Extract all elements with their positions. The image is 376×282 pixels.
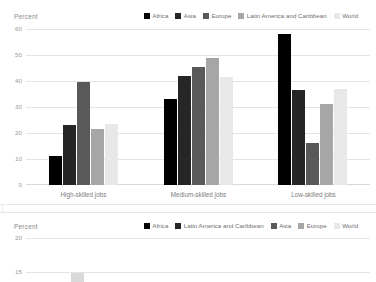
plot-area [26,29,370,185]
bar-world[interactable] [334,89,347,185]
legend-item-world[interactable]: World [334,223,359,229]
bar-asia[interactable] [63,125,76,185]
bar-asia[interactable] [292,90,305,185]
legend-swatch-icon [203,13,209,19]
y-tick-label: 20 [8,235,22,241]
legend-swatch-icon [334,13,340,19]
legend-swatch-icon [175,13,181,19]
y-tick-label: 40 [8,78,22,84]
y-tick-label: 20 [8,130,22,136]
legend-label: Europe [307,223,327,229]
chart-legend: Africa Latin America and Caribbean Asia … [144,223,358,229]
bar-groups [26,273,370,282]
y-tick-label: 30 [8,104,22,110]
legend-swatch-icon [175,223,181,229]
x-category-label: Medium-skilled jobs [141,191,256,198]
y-tick-label: 0 [8,182,22,188]
bar-africa[interactable] [278,34,291,185]
legend-item-world[interactable]: World [334,13,359,19]
legend-label: Africa [153,223,169,229]
legend-swatch-icon [144,13,150,19]
legend-label: Africa [153,13,169,19]
plot-area [26,238,370,282]
bar-latin-america-and-caribbean[interactable] [206,58,219,185]
bar-group-high-skilled-jobs [26,29,141,185]
y-axis-title: Percent [14,13,38,20]
legend-swatch-icon [144,223,150,229]
chart-panel-top: Percent Africa Asia Europe Latin America… [0,0,376,205]
bar-latin-america-and-caribbean[interactable] [91,129,104,185]
bar-africa[interactable] [164,99,177,185]
legend-swatch-icon [271,223,277,229]
legend-label: Asia [184,13,196,19]
bar-world[interactable] [220,77,233,185]
bar-europe[interactable] [77,82,90,185]
legend-label: Latin America and Caribbean [184,223,264,229]
bar-world[interactable] [71,273,84,282]
bar-world[interactable] [105,124,118,185]
y-tick-label: 15 [8,269,22,275]
legend-label: Asia [279,223,291,229]
legend-swatch-icon [334,223,340,229]
bar-groups [26,29,370,185]
legend-item-latin-america-and-caribbean[interactable]: Latin America and Caribbean [175,223,263,229]
legend-label: Europe [211,13,231,19]
legend-item-asia[interactable]: Asia [175,13,196,19]
legend-swatch-icon [238,13,244,19]
legend-label: World [342,13,358,19]
legend-item-africa[interactable]: Africa [144,223,168,229]
legend-item-africa[interactable]: Africa [144,13,168,19]
bar-asia[interactable] [178,76,191,185]
x-category-label: High-skilled jobs [26,191,141,198]
legend-item-asia[interactable]: Asia [271,223,292,229]
legend-label: Latin America and Caribbean [247,13,327,19]
chart-panel-bottom: Percent Africa Latin America and Caribbe… [0,212,376,281]
y-tick-label: 60 [8,26,22,32]
bar-latin-america-and-caribbean[interactable] [320,104,333,185]
legend-item-latin-america-and-caribbean[interactable]: Latin America and Caribbean [238,13,326,19]
bar-europe[interactable] [192,67,205,185]
x-category-label: Low-skilled jobs [256,191,371,198]
chart-legend: Africa Asia Europe Latin America and Car… [144,13,358,19]
bar-group-medium-skilled-jobs [141,29,256,185]
legend-item-europe[interactable]: Europe [298,223,326,229]
bar-group-low-skilled-jobs [255,29,370,185]
legend-swatch-icon [298,223,304,229]
bar-africa[interactable] [49,156,62,185]
legend-item-europe[interactable]: Europe [203,13,231,19]
gridline [26,238,370,239]
bar-europe[interactable] [306,143,319,185]
y-tick-label: 50 [8,52,22,58]
y-axis-title: Percent [14,223,38,230]
y-tick-label: 10 [8,156,22,162]
legend-label: World [342,223,358,229]
